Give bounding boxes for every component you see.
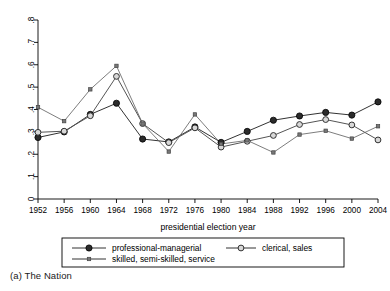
data-point-marker bbox=[350, 137, 353, 140]
figure-panel: 0.1.2.3.4.5.6.7.8 1952195619601964196819… bbox=[0, 0, 390, 291]
x-axis-title: presidential election year bbox=[160, 222, 255, 232]
data-point-marker bbox=[140, 136, 146, 142]
x-tick-label: 1964 bbox=[107, 206, 126, 215]
legend: professional-managerialclerical, salessk… bbox=[72, 243, 312, 264]
legend-item: skilled, semi-skilled, service bbox=[72, 254, 215, 264]
data-point-marker bbox=[297, 122, 303, 128]
y-tick-label: .7 bbox=[27, 39, 36, 46]
data-point-marker bbox=[270, 117, 276, 123]
x-axis-tick-labels: 1952195619601964196819721976198019841988… bbox=[29, 206, 388, 215]
data-point-marker bbox=[113, 100, 119, 106]
y-tick-label: 0 bbox=[27, 196, 36, 201]
x-tick-label: 2000 bbox=[343, 206, 362, 215]
x-axis-ticks bbox=[38, 199, 378, 203]
data-point-marker bbox=[323, 117, 329, 123]
data-point-marker bbox=[375, 99, 381, 105]
series-markers-group bbox=[35, 64, 381, 154]
x-tick-label: 1960 bbox=[81, 206, 100, 215]
data-point-marker bbox=[166, 140, 172, 146]
data-point-marker bbox=[270, 133, 276, 139]
data-point-marker bbox=[272, 151, 275, 154]
figure-caption: (a) The Nation bbox=[10, 270, 72, 281]
data-point-marker bbox=[324, 129, 327, 132]
data-point-marker bbox=[219, 142, 222, 145]
data-point-marker bbox=[246, 139, 249, 142]
legend-label: professional-managerial bbox=[112, 243, 202, 253]
x-tick-label: 1988 bbox=[264, 206, 283, 215]
x-tick-label: 1992 bbox=[290, 206, 309, 215]
y-tick-label: .8 bbox=[27, 16, 36, 23]
data-point-marker bbox=[349, 112, 355, 118]
line-chart: 0.1.2.3.4.5.6.7.8 1952195619601964196819… bbox=[0, 0, 390, 291]
data-point-marker bbox=[375, 137, 381, 143]
data-point-marker bbox=[89, 88, 92, 91]
data-point-marker bbox=[87, 113, 93, 119]
data-point-marker bbox=[244, 128, 250, 134]
data-point-marker bbox=[192, 125, 198, 131]
x-tick-label: 1980 bbox=[212, 206, 231, 215]
y-axis-tick-labels: 0.1.2.3.4.5.6.7.8 bbox=[27, 16, 36, 201]
y-tick-label: .3 bbox=[27, 128, 36, 135]
legend-marker bbox=[87, 257, 90, 260]
x-tick-label: 1952 bbox=[29, 206, 48, 215]
data-point-marker bbox=[167, 150, 170, 153]
x-tick-label: 1976 bbox=[186, 206, 205, 215]
y-tick-label: .5 bbox=[27, 83, 36, 90]
data-point-marker bbox=[141, 122, 144, 125]
data-point-marker bbox=[114, 73, 120, 79]
y-tick-label: .6 bbox=[27, 61, 36, 68]
y-tick-label: .2 bbox=[27, 150, 36, 157]
data-point-marker bbox=[35, 129, 41, 135]
data-point-marker bbox=[298, 133, 301, 136]
data-point-marker bbox=[61, 128, 67, 134]
legend-marker bbox=[86, 245, 92, 251]
y-tick-label: .1 bbox=[27, 173, 36, 180]
data-point-marker bbox=[62, 119, 65, 122]
x-tick-label: 2004 bbox=[369, 206, 388, 215]
legend-item: professional-managerial bbox=[72, 243, 202, 253]
data-point-marker bbox=[115, 64, 118, 67]
y-tick-label: .4 bbox=[27, 106, 36, 113]
legend-item: clerical, sales bbox=[226, 243, 312, 253]
x-tick-label: 1984 bbox=[238, 206, 257, 215]
data-point-marker bbox=[36, 106, 39, 109]
x-tick-label: 1956 bbox=[55, 206, 74, 215]
data-point-marker bbox=[296, 113, 302, 119]
data-point-marker bbox=[323, 109, 329, 115]
data-point-marker bbox=[349, 122, 355, 128]
legend-label: skilled, semi-skilled, service bbox=[112, 254, 215, 264]
data-point-marker bbox=[376, 125, 379, 128]
legend-label: clerical, sales bbox=[262, 243, 312, 253]
legend-marker bbox=[238, 245, 244, 251]
x-tick-label: 1996 bbox=[317, 206, 336, 215]
x-tick-label: 1972 bbox=[160, 206, 179, 215]
data-point-marker bbox=[193, 113, 196, 116]
x-tick-label: 1968 bbox=[134, 206, 153, 215]
